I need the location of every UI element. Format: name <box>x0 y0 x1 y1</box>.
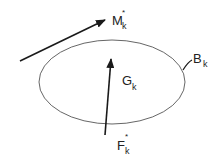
svg-text:k: k <box>203 59 208 69</box>
moment-arrow <box>20 20 105 61</box>
body-ellipse <box>39 40 185 124</box>
svg-text:G: G <box>122 73 132 88</box>
svg-text:*: * <box>122 8 125 17</box>
svg-text:k: k <box>125 146 130 156</box>
diagram-canvas: M k * B k G k F k * <box>0 0 219 158</box>
svg-text:F: F <box>117 138 125 153</box>
force-label: F k * <box>117 132 130 156</box>
body-leader-line <box>183 60 192 70</box>
svg-text:k: k <box>132 82 137 92</box>
centroid-label: G k <box>122 73 137 92</box>
svg-text:B: B <box>193 51 202 66</box>
svg-text:*: * <box>125 132 128 141</box>
body-label: B k <box>193 51 208 69</box>
svg-text:k: k <box>122 21 127 31</box>
moment-label: M k * <box>112 8 127 31</box>
